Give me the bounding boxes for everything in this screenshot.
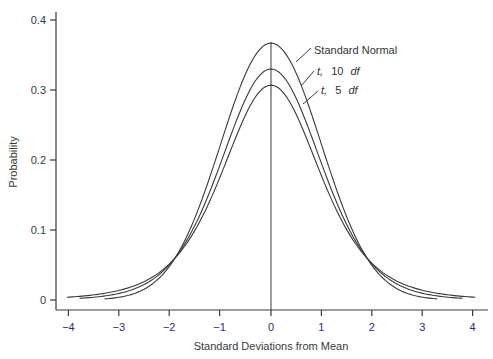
y-axis-title: Probability <box>7 136 19 188</box>
x-tick-label: −2 <box>163 321 176 333</box>
x-ticks: −4−3−2−101234 <box>62 310 476 333</box>
label-t5-num: 5 <box>335 84 341 96</box>
x-tick-label: 1 <box>318 321 324 333</box>
y-tick-label: 0.2 <box>31 154 46 166</box>
x-tick-label: 3 <box>419 321 425 333</box>
x-tick-label: 0 <box>268 321 274 333</box>
y-tick-label: 0.1 <box>31 224 46 236</box>
y-tick-label: 0.3 <box>31 84 46 96</box>
label-t10-t: t, <box>317 65 323 77</box>
chart: 00.10.20.30.4 −4−3−2−101234 Standard Nor… <box>0 0 493 359</box>
x-tick-label: −1 <box>213 321 226 333</box>
x-tick-label: 2 <box>369 321 375 333</box>
label-t5-t: t, <box>321 84 327 96</box>
y-ticks: 00.10.20.30.4 <box>31 14 56 306</box>
label-t5-df: df <box>348 84 358 96</box>
label-t10-df: df <box>351 65 361 77</box>
y-tick-label: 0.4 <box>31 14 46 26</box>
x-tick-label: −4 <box>62 321 75 333</box>
x-axis-title: Standard Deviations from Mean <box>194 340 349 352</box>
leader-t10 <box>301 71 314 86</box>
y-tick-label: 0 <box>40 294 46 306</box>
label-t5: t, 5 df <box>321 84 358 96</box>
x-tick-label: −3 <box>113 321 126 333</box>
x-tick-label: 4 <box>470 321 476 333</box>
label-standard-normal: Standard Normal <box>314 44 397 56</box>
leader-standard-normal <box>296 48 311 62</box>
label-t10-num: 10 <box>331 65 343 77</box>
label-t10: t, 10 df <box>317 65 361 77</box>
